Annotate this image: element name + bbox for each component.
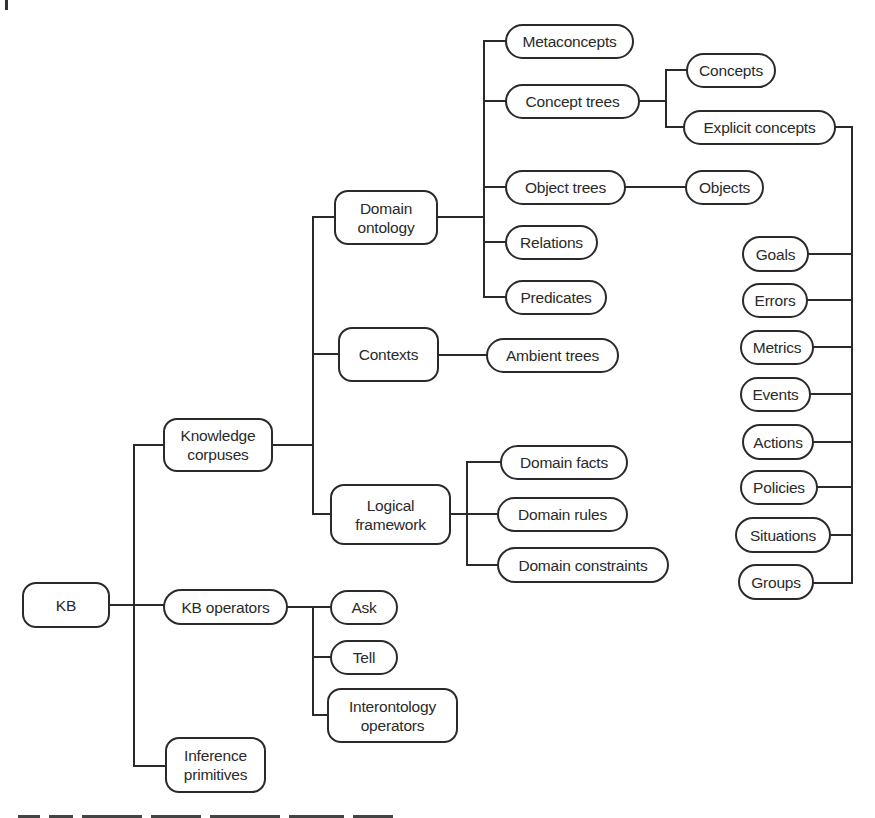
node-kb: KB (22, 582, 110, 628)
node-label: Object trees (525, 178, 606, 197)
node-label: KB operators (181, 598, 269, 617)
node-domain-facts: Domain facts (500, 445, 628, 480)
node-label: Concepts (699, 61, 763, 80)
connector-8 (288, 607, 330, 715)
node-label: Metaconcepts (522, 32, 616, 51)
node-label: Domain rules (518, 505, 607, 524)
node-concepts: Concepts (686, 53, 776, 88)
node-label: Objects (699, 178, 750, 197)
node-label: Domain ontology (357, 199, 414, 237)
node-events: Events (740, 377, 811, 412)
connector-7 (451, 462, 500, 565)
node-label: Logical framework (355, 496, 426, 534)
node-label: Tell (353, 648, 375, 667)
node-label: Situations (750, 526, 816, 545)
kb-structure-diagram: KBKnowledge corpusesKB operatorsInferenc… (0, 0, 875, 818)
node-label: KB (56, 596, 76, 615)
node-actions: Actions (742, 424, 814, 460)
node-label: Concept trees (526, 92, 620, 111)
connector-4 (640, 70, 686, 127)
node-tell: Tell (330, 640, 398, 675)
figure-caption-clipped (18, 811, 418, 818)
node-label: Knowledge corpuses (181, 426, 256, 464)
node-label: Actions (753, 433, 802, 452)
node-metaconcepts: Metaconcepts (505, 24, 634, 59)
node-ambient-trees: Ambient trees (486, 338, 619, 373)
node-goals: Goals (742, 236, 809, 272)
node-label: Contexts (359, 345, 419, 364)
node-predicates: Predicates (505, 280, 607, 315)
node-label: Ask (351, 598, 376, 617)
node-label: Goals (756, 245, 796, 264)
node-ask: Ask (330, 590, 398, 625)
node-kb-operators: KB operators (163, 589, 288, 625)
node-metrics: Metrics (740, 330, 814, 365)
connector-2 (273, 217, 338, 514)
node-errors: Errors (742, 283, 808, 318)
node-knowledge-corpuses: Knowledge corpuses (163, 418, 273, 472)
node-interontology-operators: Interontology operators (327, 688, 458, 743)
node-label: Metrics (753, 338, 802, 357)
node-label: Groups (751, 573, 801, 592)
node-label: Policies (753, 478, 805, 497)
connector-9 (808, 127, 852, 583)
node-object-trees: Object trees (505, 170, 626, 205)
node-contexts: Contexts (338, 327, 439, 382)
node-situations: Situations (735, 517, 831, 553)
node-objects: Objects (685, 170, 764, 205)
node-relations: Relations (505, 225, 598, 260)
node-domain-constraints: Domain constraints (497, 547, 669, 583)
node-label: Domain constraints (518, 556, 647, 575)
connector-3 (438, 41, 505, 297)
node-domain-ontology: Domain ontology (334, 190, 438, 245)
node-domain-rules: Domain rules (497, 497, 628, 532)
node-label: Domain facts (520, 453, 608, 472)
node-policies: Policies (740, 470, 818, 505)
node-concept-trees: Concept trees (505, 84, 640, 119)
node-label: Errors (755, 291, 796, 310)
node-explicit-concepts: Explicit concepts (683, 110, 836, 145)
node-label: Events (752, 385, 798, 404)
node-label: Interontology operators (349, 697, 436, 735)
node-inference-primitives: Inference primitives (165, 737, 266, 793)
node-label: Predicates (520, 288, 591, 307)
node-logical-framework: Logical framework (330, 484, 451, 545)
node-label: Ambient trees (506, 346, 599, 365)
node-groups: Groups (738, 564, 814, 600)
node-label: Inference primitives (184, 746, 247, 784)
node-label: Explicit concepts (703, 118, 815, 137)
node-label: Relations (520, 233, 583, 252)
